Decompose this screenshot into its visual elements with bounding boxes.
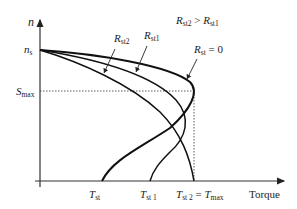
tst2-sub: st 2 [182, 193, 193, 202]
rst2-main: R [114, 32, 121, 44]
rst0-label: Rst = 0 [194, 44, 223, 57]
rst0-suffix: = 0 [206, 43, 223, 55]
tst-sub: st [95, 193, 100, 202]
rst1-main: R [144, 29, 151, 41]
rst2-sub: st2 [121, 37, 130, 46]
rst1-label: Rst1 [144, 30, 160, 43]
tst1-tick-label: Tst 1 [140, 189, 157, 202]
relation-op: > [192, 14, 204, 26]
curve-rst0 [40, 50, 194, 181]
relation-left-sub: st2 [183, 19, 192, 28]
relation-left-main: R [176, 14, 183, 26]
tst-tick-label: Tst [89, 189, 100, 202]
ns-tick-label: ns [24, 44, 32, 57]
x-axis-label: Torque [249, 189, 280, 200]
rst0-pointer [187, 59, 197, 79]
rst2-pointer [104, 49, 115, 73]
smax-sub: max [22, 90, 35, 99]
y-axis-label: n [28, 16, 34, 28]
rst0-main: R [194, 43, 201, 55]
tst2-eq: = [193, 188, 205, 200]
ns-sub: s [30, 48, 33, 57]
rst1-sub: st1 [151, 34, 160, 43]
rst1-pointer [136, 46, 147, 72]
tst2-tick-label: Tst 2 = Tmax [176, 189, 224, 202]
curve-rst2 [40, 50, 194, 181]
relation-right-sub: st1 [210, 19, 219, 28]
tmax-sub: max [211, 193, 224, 202]
smax-tick-label: Smax [16, 86, 34, 99]
resistance-relation: Rst2 > Rst1 [176, 15, 219, 28]
rst2-label: Rst2 [114, 33, 130, 46]
relation-right-main: R [203, 14, 210, 26]
tst1-sub: st 1 [146, 193, 157, 202]
